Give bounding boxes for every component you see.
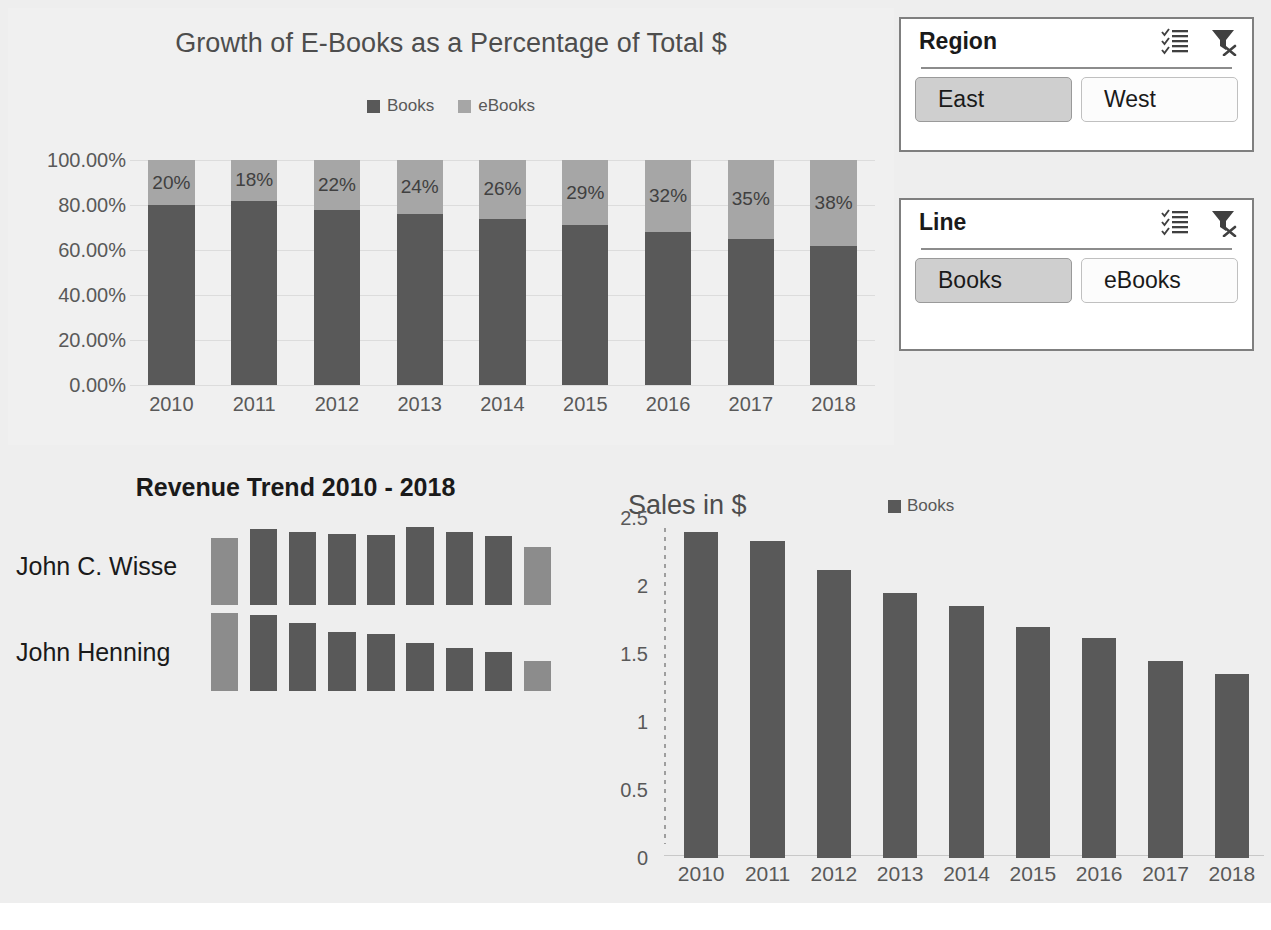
y-axis-tick-label: 80.00% xyxy=(58,194,126,217)
bar-segment-ebooks[interactable]: 26% xyxy=(479,160,525,219)
stacked-bar-column[interactable]: 20% xyxy=(148,160,194,385)
bar-segment-books[interactable] xyxy=(314,210,360,386)
sales-bar[interactable] xyxy=(750,541,784,858)
sales-bar[interactable] xyxy=(883,593,917,858)
bar-data-label: 24% xyxy=(397,176,443,198)
revenue-trend-bar[interactable] xyxy=(211,613,238,691)
stacked-bar-chart-panel: Growth of E-Books as a Percentage of Tot… xyxy=(8,8,894,445)
sales-bar[interactable] xyxy=(949,606,983,858)
bar-segment-books[interactable] xyxy=(479,219,525,386)
multi-select-checklist-icon[interactable] xyxy=(1160,207,1190,237)
bar-data-label: 26% xyxy=(479,178,525,200)
stacked-bar-column[interactable]: 32% xyxy=(645,160,691,385)
slicer-line: Line xyxy=(899,198,1254,351)
bar-segment-books[interactable] xyxy=(810,246,856,386)
slicer-region-divider xyxy=(921,67,1232,69)
revenue-trend-bar[interactable] xyxy=(446,648,473,691)
legend-label-books: Books xyxy=(907,496,954,516)
bar-data-label: 18% xyxy=(231,169,277,191)
revenue-trend-bar[interactable] xyxy=(406,643,433,691)
bar-segment-books[interactable] xyxy=(231,201,277,386)
x-axis-tick-label: 2015 xyxy=(563,393,608,416)
sales-bar[interactable] xyxy=(1215,674,1249,858)
revenue-trend-bar[interactable] xyxy=(328,534,355,605)
x-axis-tick-label: 2012 xyxy=(315,393,360,416)
sales-chart-y-axis-line xyxy=(664,528,666,844)
bar-segment-ebooks[interactable]: 29% xyxy=(562,160,608,225)
y-axis-tick-label: 100.00% xyxy=(47,149,126,172)
legend-item-ebooks[interactable]: eBooks xyxy=(458,96,535,116)
stacked-bar-column[interactable]: 35% xyxy=(728,160,774,385)
bar-segment-ebooks[interactable]: 24% xyxy=(397,160,443,214)
y-axis-tick-label: 60.00% xyxy=(58,239,126,262)
revenue-trend-bar[interactable] xyxy=(250,615,277,691)
page-bottom-margin xyxy=(0,903,1271,930)
sales-bar[interactable] xyxy=(1016,627,1050,858)
revenue-trend-bar[interactable] xyxy=(289,532,316,605)
bar-segment-ebooks[interactable]: 22% xyxy=(314,160,360,210)
slicer-item-east[interactable]: East xyxy=(915,77,1072,122)
sales-bar[interactable] xyxy=(1148,661,1182,858)
bar-segment-books[interactable] xyxy=(728,239,774,385)
y-axis-tick-label: 0 xyxy=(637,847,648,870)
sales-bar[interactable] xyxy=(1082,638,1116,858)
revenue-trend-bar[interactable] xyxy=(367,634,394,691)
bar-data-label: 32% xyxy=(645,185,691,207)
revenue-trend-bar[interactable] xyxy=(524,547,551,605)
stacked-bar-column[interactable]: 38% xyxy=(810,160,856,385)
bar-segment-ebooks[interactable]: 35% xyxy=(728,160,774,239)
stacked-bar-column[interactable]: 24% xyxy=(397,160,443,385)
revenue-trend-bar[interactable] xyxy=(406,527,433,605)
sales-bar[interactable] xyxy=(684,532,718,858)
sales-bar[interactable] xyxy=(817,570,851,858)
bar-segment-books[interactable] xyxy=(645,232,691,385)
bar-segment-ebooks[interactable]: 20% xyxy=(148,160,194,205)
revenue-trend-bar[interactable] xyxy=(485,652,512,691)
slicer-item-books[interactable]: Books xyxy=(915,258,1072,303)
bar-segment-ebooks[interactable]: 38% xyxy=(810,160,856,246)
x-axis-tick-label: 2014 xyxy=(480,393,525,416)
x-axis-tick-label: 2013 xyxy=(397,393,442,416)
y-axis-tick-label: 2 xyxy=(637,575,648,598)
bar-data-label: 35% xyxy=(728,188,774,210)
sales-chart-plot-area xyxy=(668,518,1265,858)
stacked-bar-column[interactable]: 26% xyxy=(479,160,525,385)
clear-filter-funnel-x-icon[interactable] xyxy=(1208,207,1238,237)
stacked-chart-y-axis: 100.00%80.00%60.00%40.00%20.00%0.00% xyxy=(26,150,126,400)
sales-chart-y-axis: 2.521.510.50 xyxy=(600,518,662,858)
x-axis-tick-label: 2016 xyxy=(646,393,691,416)
bar-segment-books[interactable] xyxy=(397,214,443,385)
revenue-trend-bar[interactable] xyxy=(328,632,355,691)
legend-label-books: Books xyxy=(387,96,434,116)
slicer-region: Region xyxy=(899,17,1254,152)
x-axis-tick-label: 2013 xyxy=(877,862,924,886)
revenue-trend-bar[interactable] xyxy=(485,536,512,605)
bar-segment-books[interactable] xyxy=(148,205,194,385)
bar-segment-ebooks[interactable]: 18% xyxy=(231,160,277,201)
revenue-trend-bar[interactable] xyxy=(211,538,238,605)
bar-segment-books[interactable] xyxy=(562,225,608,385)
revenue-trend-bar[interactable] xyxy=(367,535,394,605)
revenue-trend-bar[interactable] xyxy=(250,529,277,605)
revenue-trend-bar[interactable] xyxy=(446,532,473,605)
slicer-item-ebooks[interactable]: eBooks xyxy=(1081,258,1238,303)
stacked-chart-legend: Books eBooks xyxy=(8,96,894,116)
legend-item-books[interactable]: Books xyxy=(367,96,434,116)
stacked-bar-column[interactable]: 18% xyxy=(231,160,277,385)
stacked-bar-column[interactable]: 22% xyxy=(314,160,360,385)
revenue-trend-title: Revenue Trend 2010 - 2018 xyxy=(8,473,583,502)
revenue-trend-bar[interactable] xyxy=(289,623,316,691)
multi-select-checklist-icon[interactable] xyxy=(1160,26,1190,56)
stacked-bar-column[interactable]: 29% xyxy=(562,160,608,385)
bar-data-label: 29% xyxy=(562,182,608,204)
slicer-region-items: East West xyxy=(915,77,1238,122)
sales-chart-legend: Books xyxy=(888,496,954,516)
slicer-item-west[interactable]: West xyxy=(1081,77,1238,122)
sales-chart-panel: Sales in $ Books 2.521.510.50 2010201120… xyxy=(600,470,1271,903)
revenue-trend-bar[interactable] xyxy=(524,661,551,691)
clear-filter-funnel-x-icon[interactable] xyxy=(1208,26,1238,56)
bar-segment-ebooks[interactable]: 32% xyxy=(645,160,691,232)
legend-square-ebooks-icon xyxy=(458,100,471,113)
stacked-chart-title: Growth of E-Books as a Percentage of Tot… xyxy=(8,28,894,59)
y-axis-tick-label: 0.00% xyxy=(69,374,126,397)
